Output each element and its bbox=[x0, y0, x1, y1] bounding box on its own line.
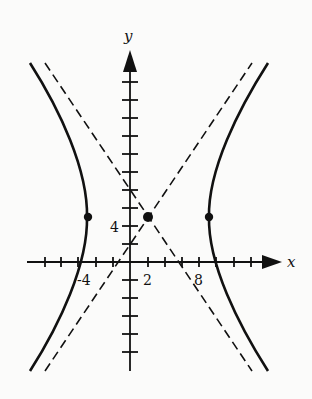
hyperbola-left-branch bbox=[30, 63, 87, 371]
y-axis-label: y bbox=[123, 27, 133, 45]
hyperbola-right-branch bbox=[209, 63, 268, 371]
tick-label-x-neg4: -4 bbox=[77, 272, 91, 288]
y-axis-arrow-icon bbox=[123, 50, 137, 72]
tick-label-x-8: 8 bbox=[194, 272, 203, 288]
center-point bbox=[143, 212, 153, 222]
hyperbola-diagram: x y -4 2 8 4 bbox=[0, 0, 312, 399]
x-axis-label: x bbox=[287, 253, 296, 271]
vertex-right bbox=[205, 213, 213, 221]
x-axis-arrow-icon bbox=[262, 255, 282, 269]
tick-label-x-2: 2 bbox=[143, 272, 152, 288]
vertex-left bbox=[84, 213, 92, 221]
tick-label-y-4: 4 bbox=[110, 219, 119, 235]
y-axis bbox=[122, 70, 138, 371]
x-axis bbox=[27, 257, 268, 267]
